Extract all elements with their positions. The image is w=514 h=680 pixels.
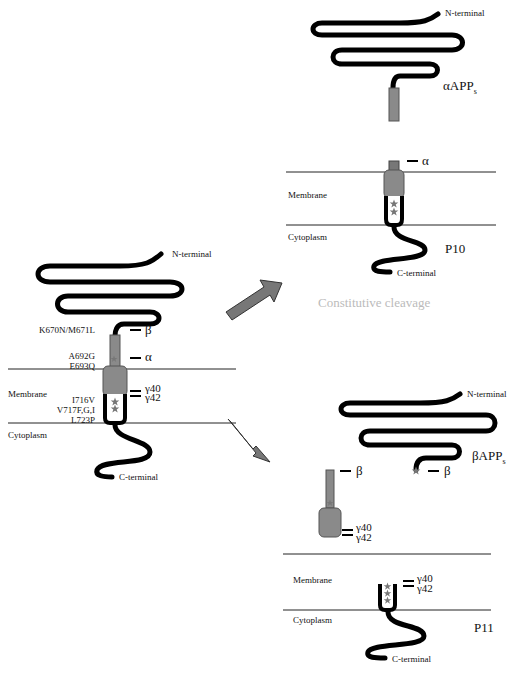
gamma-site-mutation-1: I716V bbox=[72, 395, 95, 405]
alpha-pathway: N-terminal αAPPs α Membrane Cytoplasm P1… bbox=[286, 8, 496, 310]
beta-pathway-arrow-icon bbox=[228, 419, 270, 462]
p10-cytoplasm-label: Cytoplasm bbox=[288, 232, 327, 242]
beta-pathway: β N-terminal βAPPs β γ40 γ42 γ40 γ42 Mem… bbox=[283, 389, 507, 664]
abeta-beta-label: β bbox=[356, 463, 363, 478]
constitutive-cleavage-caption: Constitutive cleavage bbox=[318, 295, 431, 310]
p11-membrane-label: Membrane bbox=[293, 575, 332, 585]
p10-label: P10 bbox=[445, 241, 465, 256]
beta-label: β bbox=[145, 322, 152, 337]
cytoplasm-label: Cytoplasm bbox=[8, 430, 47, 440]
abeta-gamma42-label: γ42 bbox=[355, 531, 372, 543]
gamma-site-mutation-3: L723P bbox=[71, 415, 95, 425]
alpha-apps-chain bbox=[313, 14, 463, 88]
extracellular-chain bbox=[38, 254, 182, 336]
alpha-apps-stalk bbox=[389, 88, 399, 121]
alpha-apps-n-terminal: N-terminal bbox=[445, 8, 485, 18]
pathway-arrows bbox=[226, 280, 282, 462]
app-processing-diagram: N-terminal K670N/M671L β A692G E693Q α γ… bbox=[0, 0, 514, 680]
p11-cytoplasmic-tail bbox=[368, 612, 424, 658]
gamma-site-mutation-2: V717F,G,I bbox=[57, 405, 95, 415]
alpha-pathway-arrow-icon bbox=[226, 280, 282, 320]
cytoplasmic-tail bbox=[97, 425, 150, 477]
beta-star-icon bbox=[412, 467, 421, 475]
p10-membrane-label: Membrane bbox=[288, 190, 327, 200]
p11-label: P11 bbox=[474, 620, 494, 635]
alpha-apps-label: αAPPs bbox=[443, 78, 477, 96]
p11-gamma42-label: γ42 bbox=[416, 582, 433, 594]
abeta-domain bbox=[103, 366, 127, 396]
p11-c-terminal-label: C-terminal bbox=[392, 654, 431, 664]
full-length-app: N-terminal K670N/M671L β A692G E693Q α γ… bbox=[8, 249, 236, 482]
membrane-label: Membrane bbox=[8, 389, 47, 399]
beta-apps-n-terminal: N-terminal bbox=[467, 389, 507, 399]
beta-apps-beta-label: β bbox=[444, 463, 451, 478]
alpha-label: α bbox=[145, 349, 152, 364]
p10-cytoplasmic-tail bbox=[374, 227, 425, 272]
n-terminal-label: N-terminal bbox=[172, 249, 212, 259]
p11-cytoplasm-label: Cytoplasm bbox=[293, 615, 332, 625]
p10-alpha-label: α bbox=[422, 153, 429, 168]
alpha-site-mutation-1: A692G bbox=[69, 351, 96, 361]
beta-apps-label: βAPPs bbox=[472, 448, 506, 466]
beta-site-mutation: K670N/M671L bbox=[39, 325, 95, 335]
c-terminal-label: C-terminal bbox=[119, 472, 158, 482]
gamma42-label: γ42 bbox=[144, 391, 161, 403]
p10-domain bbox=[384, 170, 404, 198]
abeta-fragment-domain bbox=[319, 508, 341, 537]
alpha-site-mutation-2: E693Q bbox=[70, 361, 96, 371]
p10-c-terminal-label: C-terminal bbox=[397, 268, 436, 278]
